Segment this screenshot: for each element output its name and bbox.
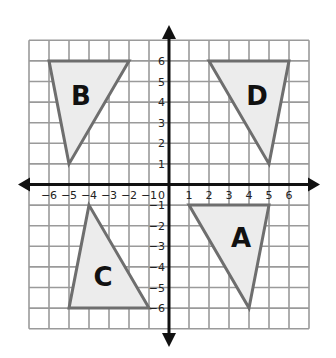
y-tick-label: 4 (158, 96, 165, 109)
y-tick-label: −4 (149, 261, 165, 274)
y-tick-label: −1 (149, 199, 165, 212)
triangle-label-d: D (246, 81, 268, 111)
x-tick-label: −4 (81, 189, 97, 202)
x-tick-label: −2 (121, 189, 137, 202)
y-tick-label: −5 (149, 282, 165, 295)
x-axis-left-arrow-icon (18, 178, 30, 192)
x-tick-label: 6 (286, 189, 293, 202)
x-tick-label: 1 (186, 189, 193, 202)
x-tick-label: −3 (101, 189, 117, 202)
y-axis-up-arrow-icon (162, 25, 176, 39)
y-tick-label: 2 (158, 137, 165, 150)
x-tick-label: 2 (206, 189, 213, 202)
y-tick-label: −2 (149, 220, 165, 233)
x-axis-right-arrow-icon (308, 178, 320, 192)
y-axis-down-arrow-icon (162, 333, 176, 347)
triangle-label-c: C (93, 262, 112, 292)
y-tick-label: 6 (158, 55, 165, 68)
coordinate-plane: −6−5−4−3−2−10123456654321−1−2−3−4−5−6 AB… (0, 0, 336, 358)
x-tick-label: 5 (266, 189, 273, 202)
triangle-label-a: A (231, 223, 251, 253)
x-tick-label: 3 (226, 189, 233, 202)
x-tick-label: −5 (61, 189, 77, 202)
x-tick-label: 4 (246, 189, 253, 202)
y-tick-label: −3 (149, 240, 165, 253)
triangle-label-b: B (71, 81, 91, 111)
y-tick-label: 1 (158, 158, 165, 171)
x-tick-label: −6 (41, 189, 57, 202)
y-tick-label: −6 (149, 302, 165, 315)
y-tick-label: 3 (158, 117, 165, 130)
y-tick-label: 5 (158, 76, 165, 89)
